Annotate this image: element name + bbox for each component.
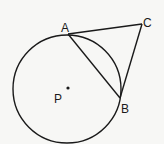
label-c: C bbox=[143, 16, 152, 30]
label-b: B bbox=[121, 102, 129, 116]
label-p: P bbox=[54, 92, 62, 106]
center-point-p bbox=[66, 86, 69, 89]
tangent-ac bbox=[68, 24, 142, 34]
tangent-bc bbox=[120, 24, 142, 98]
geometry-diagram: A C B P bbox=[0, 0, 164, 144]
label-a: A bbox=[61, 21, 69, 35]
chord-ab bbox=[68, 34, 120, 98]
